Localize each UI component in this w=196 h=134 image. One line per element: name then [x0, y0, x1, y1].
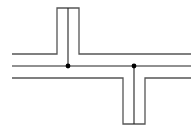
t-junction-diagram [0, 0, 196, 134]
diagram-svg [0, 0, 196, 134]
channel-bottom-wall [12, 78, 191, 124]
junction-node-lower [132, 64, 137, 69]
channel-top-wall [12, 8, 191, 54]
junction-node-upper [66, 64, 71, 69]
